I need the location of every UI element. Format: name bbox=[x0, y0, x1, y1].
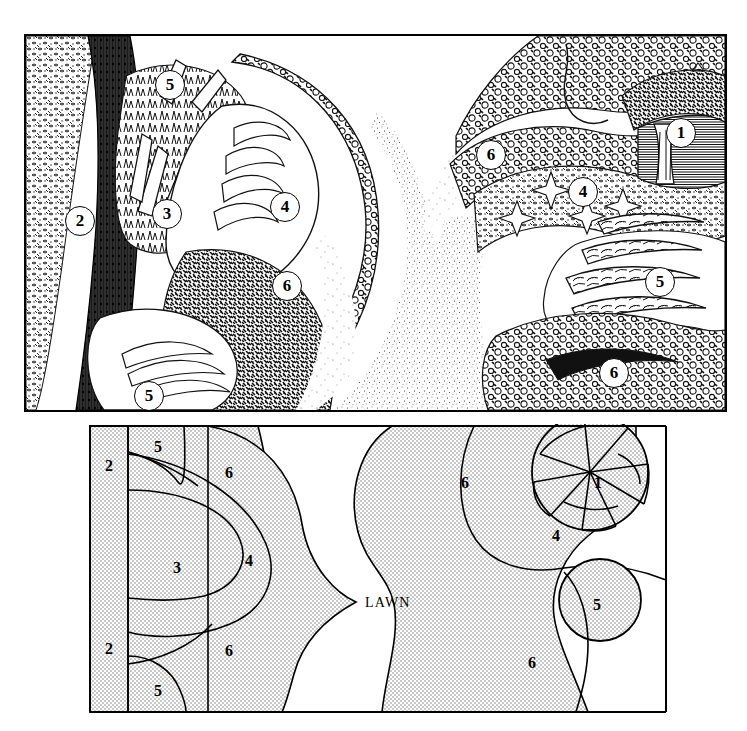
callout-4-mid-bed-left[interactable]: 4 bbox=[270, 192, 300, 222]
plan-label-5-lower-left: 5 bbox=[154, 682, 162, 700]
callout-1-specimen-tree[interactable]: 1 bbox=[666, 118, 696, 148]
plan-label-5-right: 5 bbox=[593, 596, 601, 614]
plan-label-6-lower-right: 6 bbox=[528, 654, 536, 672]
illustration-artwork bbox=[26, 36, 725, 410]
callout-6-upper-right[interactable]: 6 bbox=[476, 140, 506, 170]
callout-5-upper-left[interactable]: 5 bbox=[155, 70, 185, 100]
callout-3-inner-bed[interactable]: 3 bbox=[152, 199, 182, 229]
callout-6-lower-right[interactable]: 6 bbox=[599, 358, 629, 388]
perspective-illustration-panel: 5 2 3 4 6 5 6 4 1 5 6 bbox=[24, 34, 727, 412]
plan-label-4-right: 4 bbox=[552, 527, 560, 545]
figure-page: 5 2 3 4 6 5 6 4 1 5 6 bbox=[0, 0, 747, 731]
plan-label-5-upper: 5 bbox=[154, 438, 162, 456]
plan-label-3: 3 bbox=[173, 559, 181, 577]
callout-4-mid-bed-right[interactable]: 4 bbox=[568, 177, 598, 207]
planting-plan-panel: 2 5 6 3 4 2 6 5 6 1 4 5 6 LAWN bbox=[88, 424, 668, 714]
plan-label-1-tree: 1 bbox=[594, 474, 602, 492]
plan-label-6-lower-left: 6 bbox=[225, 642, 233, 660]
callout-6-outer-bed-left[interactable]: 6 bbox=[272, 271, 302, 301]
plan-label-lawn: LAWN bbox=[365, 595, 411, 611]
plan-label-4-left: 4 bbox=[245, 552, 253, 570]
plan-label-6-upper-right: 6 bbox=[461, 474, 469, 492]
plan-label-6-upper-left: 6 bbox=[225, 464, 233, 482]
plan-label-2-lower: 2 bbox=[105, 640, 113, 658]
callout-2-hedge[interactable]: 2 bbox=[65, 206, 95, 236]
callout-5-lower-left[interactable]: 5 bbox=[134, 381, 164, 411]
plan-label-2-upper: 2 bbox=[105, 457, 113, 475]
callout-5-right[interactable]: 5 bbox=[645, 267, 675, 297]
